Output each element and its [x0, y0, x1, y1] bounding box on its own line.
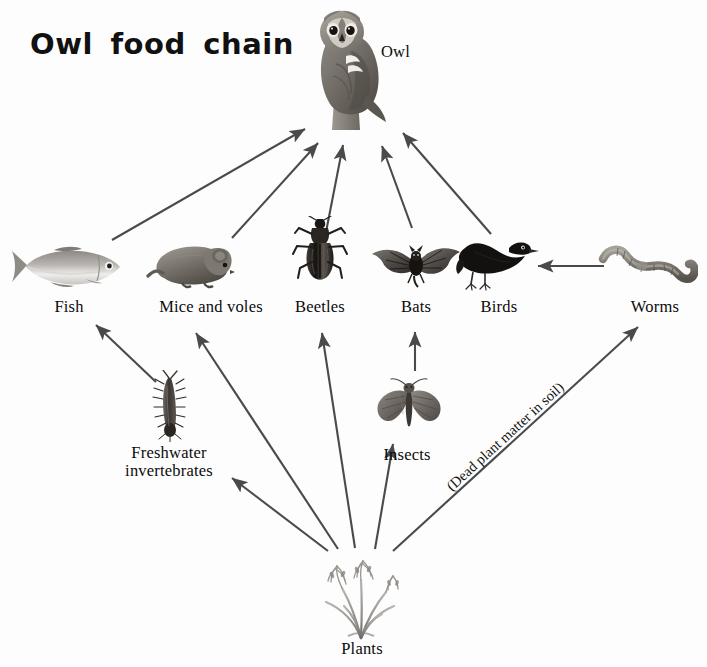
fish-illustration: [10, 241, 125, 291]
beetle-illustration: [292, 216, 348, 284]
arrow-plants-to-mice: [196, 333, 338, 549]
bird-illustration: [455, 236, 539, 292]
node-label-mice: Mice and voles: [141, 298, 281, 316]
node-label-plants: Plants: [322, 640, 402, 658]
arrow-plants-to-beetles: [322, 333, 355, 548]
arrow-bats-to-owl: [382, 146, 412, 228]
plant-illustration: [318, 558, 404, 640]
node-label-beetles: Beetles: [283, 298, 357, 316]
arrow-plants-to-freshwater: [232, 478, 328, 551]
node-label-worms: Worms: [620, 298, 690, 316]
bat-illustration: [368, 240, 464, 288]
page-title: Owl food chain: [30, 27, 294, 61]
arrow-fish-to-owl: [112, 129, 305, 240]
node-label-bats: Bats: [385, 298, 447, 316]
moth-illustration: [373, 376, 445, 434]
node-label-owl: Owl: [381, 43, 461, 61]
worm-illustration: [598, 243, 698, 289]
food-chain-diagram: Owl food chain: [0, 0, 707, 667]
arrow-birds-to-owl: [403, 133, 491, 234]
mouse-illustration: [146, 240, 238, 290]
freshwater-invertebrate-illustration: [146, 370, 192, 442]
node-label-fish: Fish: [34, 298, 104, 316]
node-label-birds: Birds: [468, 298, 530, 316]
owl-illustration: [306, 4, 394, 134]
node-label-insects: Insects: [352, 446, 462, 464]
node-label-freshwater: Freshwater invertebrates: [113, 444, 225, 481]
